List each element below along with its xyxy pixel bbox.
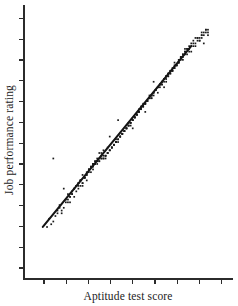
y-axis-label: Job performance rating	[3, 85, 16, 195]
data-point	[203, 34, 205, 36]
data-point	[203, 43, 205, 45]
data-point	[197, 40, 199, 42]
axis-spines	[24, 5, 233, 279]
data-point	[69, 196, 71, 198]
data-point	[205, 32, 207, 34]
data-point	[82, 185, 84, 187]
data-point	[96, 163, 98, 165]
data-point	[203, 32, 205, 34]
data-point	[195, 43, 197, 45]
data-point	[186, 54, 188, 56]
data-point	[52, 221, 54, 223]
data-point	[98, 160, 100, 162]
x-axis-ticks	[44, 279, 222, 284]
data-point	[117, 138, 119, 140]
data-point	[105, 155, 107, 157]
data-point	[92, 169, 94, 171]
data-point	[157, 92, 159, 94]
data-point	[63, 188, 65, 190]
data-point	[192, 43, 194, 45]
data-point	[151, 97, 153, 99]
data-point	[82, 174, 84, 176]
data-point	[57, 212, 59, 214]
data-point	[61, 212, 63, 214]
plot-canvas: Aptitude test score Job performance rati…	[0, 0, 238, 306]
data-point	[124, 130, 126, 132]
data-point	[207, 34, 209, 36]
data-point	[75, 191, 77, 193]
data-point	[115, 141, 117, 143]
data-point	[130, 125, 132, 127]
data-point	[153, 95, 155, 97]
data-point	[117, 119, 119, 121]
data-point	[90, 171, 92, 173]
data-point	[50, 223, 52, 225]
data-point	[197, 37, 199, 39]
data-point	[46, 226, 48, 228]
data-point	[184, 48, 186, 50]
data-point	[174, 62, 176, 64]
data-point	[192, 45, 194, 47]
data-point	[132, 128, 134, 130]
regression-line	[43, 46, 191, 227]
data-point	[163, 86, 165, 88]
data-point	[82, 182, 84, 184]
y-axis-ticks	[19, 18, 24, 268]
data-point	[192, 40, 194, 42]
data-point	[201, 37, 203, 39]
data-point	[65, 201, 67, 203]
data-point	[182, 59, 184, 61]
data-point	[103, 158, 105, 160]
data-point	[195, 45, 197, 47]
data-point	[199, 37, 201, 39]
data-point	[80, 185, 82, 187]
data-point	[207, 29, 209, 31]
data-point	[159, 86, 161, 88]
data-point	[105, 158, 107, 160]
data-point	[190, 43, 192, 45]
data-point	[73, 196, 75, 198]
data-point	[86, 180, 88, 182]
data-point	[111, 147, 113, 149]
x-axis-label: Aptitude test score	[83, 290, 172, 303]
data-point	[117, 141, 119, 143]
data-point	[201, 32, 203, 34]
data-point	[195, 37, 197, 39]
data-point	[67, 201, 69, 203]
data-point	[199, 40, 201, 42]
data-point	[188, 51, 190, 53]
data-point	[201, 34, 203, 36]
data-points-group	[46, 29, 209, 228]
data-point	[78, 188, 80, 190]
data-point	[113, 144, 115, 146]
data-point	[207, 32, 209, 34]
data-point	[121, 133, 123, 135]
data-point	[165, 81, 167, 83]
data-point	[55, 215, 57, 217]
data-point	[109, 149, 111, 151]
data-point	[63, 207, 65, 209]
data-point	[67, 199, 69, 201]
data-point	[144, 111, 146, 113]
data-point	[153, 81, 155, 83]
data-point	[126, 128, 128, 130]
data-point	[109, 136, 111, 138]
data-point	[98, 152, 100, 154]
data-point	[205, 29, 207, 31]
scatter-plot-figure: Aptitude test score Job performance rati…	[0, 0, 238, 306]
data-point	[69, 201, 71, 203]
data-point	[107, 152, 109, 154]
data-point	[128, 125, 130, 127]
data-point	[61, 210, 63, 212]
data-point	[190, 51, 192, 53]
data-point	[52, 158, 54, 160]
data-point	[119, 136, 121, 138]
